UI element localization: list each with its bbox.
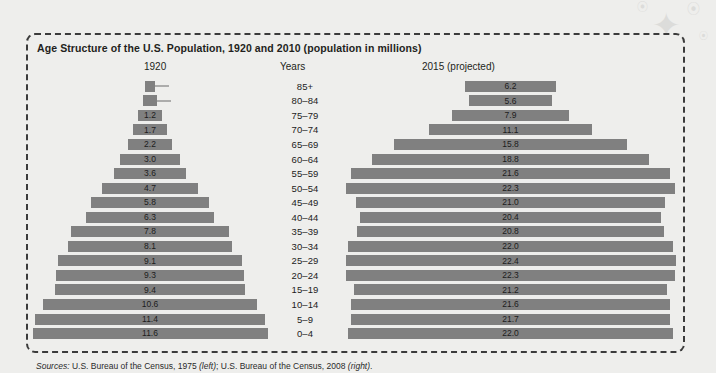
age-group-label: 75–79 — [292, 110, 319, 121]
pyramid-row: 11.60–422.0 — [28, 326, 683, 341]
bar-2015: 22.3 — [346, 270, 675, 281]
bar-2015: 7.9 — [452, 110, 568, 121]
column-headers: 1920 Years 2015 (projected) — [28, 61, 683, 77]
bar-value-1920: 2.2 — [144, 140, 156, 149]
bar-value-1920: 11.6 — [142, 329, 158, 338]
pyramid-row: 1.275–797.9 — [28, 108, 683, 123]
right-series-cell: 7.9 — [338, 108, 683, 123]
left-series-cell: 6.3 — [28, 210, 272, 225]
age-group-label: 55–59 — [292, 168, 319, 179]
value-callout: 0.5 — [155, 86, 173, 87]
pyramid-row: 11.45–921.7 — [28, 312, 683, 327]
bar-2015: 21.6 — [351, 299, 669, 310]
bar-2015: 18.8 — [372, 154, 649, 165]
left-series-cell: 9.1 — [28, 254, 272, 269]
bar-value-1920: 9.1 — [144, 257, 156, 266]
bar-value-2015: 5.6 — [505, 97, 517, 106]
left-series-cell: 11.6 — [28, 326, 272, 341]
bar-1920: 8.1 — [68, 241, 232, 252]
pyramid-row: 7.835–3920.8 — [28, 224, 683, 239]
bar-1920: 2.2 — [128, 139, 173, 150]
bar-value-2015: 15.8 — [502, 140, 519, 149]
bar-value-2015: 7.9 — [505, 111, 517, 120]
bar-1920: 0.50.5 — [145, 81, 155, 92]
bar-value-2015: 22.0 — [502, 242, 519, 251]
left-series-cell: 9.3 — [28, 268, 272, 283]
sources-end: . — [370, 361, 372, 371]
callout-leader-line — [157, 100, 171, 101]
pyramid-rows: 0.50.585+6.20.70.780–845.61.275–797.91.7… — [28, 79, 683, 341]
age-group-label: 25–29 — [292, 255, 319, 266]
bar-1920: 10.6 — [43, 299, 258, 310]
right-series-cell: 15.8 — [338, 137, 683, 152]
bar-2015: 21.0 — [356, 197, 665, 208]
pyramid-row: 9.125–2922.4 — [28, 254, 683, 269]
left-series-cell: 2.2 — [28, 137, 272, 152]
sources-right-note: (right) — [348, 361, 370, 371]
age-label-cell: 60–64 — [272, 152, 338, 167]
bar-1920: 3.6 — [114, 168, 187, 179]
bar-value-2015: 21.0 — [502, 198, 519, 207]
age-label-cell: 85+ — [272, 79, 338, 94]
age-label-cell: 50–54 — [272, 181, 338, 196]
bar-value-1920: 10.6 — [142, 300, 159, 309]
header-1920: 1920 — [144, 61, 166, 72]
bar-1920: 9.1 — [58, 255, 242, 266]
bar-2015: 21.6 — [351, 168, 669, 179]
left-series-cell: 0.50.5 — [28, 79, 272, 94]
right-series-cell: 22.3 — [338, 181, 683, 196]
left-series-cell: 11.4 — [28, 312, 272, 327]
bar-2015: 15.8 — [394, 139, 627, 150]
bar-2015: 6.2 — [465, 81, 556, 92]
pyramid-row: 5.845–4921.0 — [28, 195, 683, 210]
bar-value-1920: 11.4 — [142, 315, 158, 324]
bar-value-2015: 21.2 — [502, 286, 519, 295]
age-group-label: 0–4 — [297, 328, 313, 339]
bar-1920: 3.0 — [120, 154, 181, 165]
pyramid-row: 1.770–7411.1 — [28, 123, 683, 138]
bar-value-1920: 4.7 — [144, 184, 156, 193]
bar-value-1920: 1.2 — [144, 111, 156, 120]
left-series-cell: 9.4 — [28, 283, 272, 298]
age-group-label: 60–64 — [292, 154, 319, 165]
callout-leader-line — [155, 86, 169, 87]
bar-1920: 1.2 — [138, 110, 162, 121]
pyramid-row: 3.060–6418.8 — [28, 152, 683, 167]
bar-value-2015: 18.8 — [502, 155, 519, 164]
bar-value-1920: 1.7 — [144, 126, 156, 135]
pyramid-row: 0.50.585+6.2 — [28, 79, 683, 94]
left-series-cell: 10.6 — [28, 297, 272, 312]
sources-left-text: U.S. Bureau of the Census, 1975 — [70, 361, 199, 371]
age-group-label: 80–84 — [292, 95, 319, 106]
bar-1920: 9.3 — [56, 270, 244, 281]
right-series-cell: 21.6 — [338, 166, 683, 181]
left-series-cell: 1.7 — [28, 123, 272, 138]
age-label-cell: 65–69 — [272, 137, 338, 152]
right-series-cell: 6.2 — [338, 79, 683, 94]
age-label-cell: 40–44 — [272, 210, 338, 225]
right-series-cell: 22.0 — [338, 326, 683, 341]
header-2015-projected: 2015 (projected) — [422, 61, 495, 72]
bar-value-2015: 22.4 — [502, 257, 519, 266]
age-group-label: 85+ — [297, 81, 313, 92]
bar-value-1920: 9.3 — [144, 271, 156, 280]
right-series-cell: 22.3 — [338, 268, 683, 283]
sparkle-watermark-small-right: ⦿ — [687, 2, 700, 15]
age-group-label: 20–24 — [292, 270, 319, 281]
right-series-cell: 21.2 — [338, 283, 683, 298]
age-label-cell: 0–4 — [272, 326, 338, 341]
sources-note: Sources: U.S. Bureau of the Census, 1975… — [36, 361, 372, 371]
age-label-cell: 5–9 — [272, 312, 338, 327]
bar-2015: 22.0 — [348, 328, 672, 339]
right-series-cell: 21.7 — [338, 312, 683, 327]
right-series-cell: 18.8 — [338, 152, 683, 167]
bar-2015: 20.4 — [360, 212, 661, 223]
sparkle-watermark-dot: ⦿ — [699, 32, 708, 41]
left-series-cell: 3.6 — [28, 166, 272, 181]
bar-1920: 11.6 — [33, 328, 268, 339]
bar-1920: 1.7 — [133, 124, 167, 135]
right-series-cell: 21.0 — [338, 195, 683, 210]
page-title: Age Structure of the U.S. Population, 19… — [37, 42, 421, 54]
age-group-label: 65–69 — [292, 139, 319, 150]
sources-label: Sources: — [36, 361, 70, 371]
